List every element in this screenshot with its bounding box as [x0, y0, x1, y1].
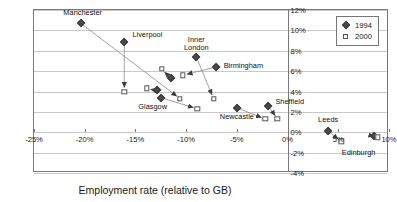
tick-mark	[389, 129, 390, 132]
city-label: Manchester	[63, 9, 102, 18]
legend: 1994 2000	[336, 16, 379, 46]
city-label: Birmingham	[224, 62, 263, 71]
x-axis-title: Employment rate (relative to GB)	[30, 182, 280, 198]
city-label: Edinburgh	[342, 149, 376, 158]
x-tick-label: -10%	[177, 135, 195, 144]
city-label: Newcastle	[220, 113, 254, 122]
city-label: Glasgow	[138, 103, 167, 112]
gridline	[34, 173, 387, 174]
point-2000	[177, 96, 182, 101]
city-label: Liverpool	[132, 31, 162, 40]
city-label: Leeds	[318, 116, 338, 125]
x-tick-label: 10%	[381, 135, 396, 144]
plot-area: ManchesterLiverpoolInnerLondonBirmingham…	[33, 9, 388, 172]
legend-entry-2000: 2000	[341, 31, 372, 42]
diamond-icon	[341, 22, 350, 28]
y-tick-label: 6%	[291, 67, 302, 76]
x-tick-label: -15%	[127, 135, 145, 144]
y-tick-label: 8%	[291, 46, 302, 55]
x-tick-label: -25%	[25, 135, 43, 144]
y-tick-label: 10%	[291, 26, 306, 35]
x-tick-label: 0%	[282, 135, 293, 144]
x-tick-label: -20%	[76, 135, 94, 144]
legend-label: 1994	[355, 20, 372, 31]
city-label: InnerLondon	[184, 36, 209, 53]
point-2000	[180, 72, 185, 77]
point-2000	[263, 116, 268, 121]
point-2000	[275, 116, 280, 121]
x-tick-label: 5%	[333, 135, 344, 144]
point-2000	[195, 106, 200, 111]
point-2000	[375, 135, 380, 140]
arrow	[81, 23, 177, 96]
point-2000	[211, 96, 216, 101]
y-tick-label: 12%	[291, 6, 306, 15]
legend-entry-1994: 1994	[341, 20, 372, 31]
x-tick-label: -5%	[230, 135, 244, 144]
point-2000	[159, 66, 164, 71]
y-tick-label: 2%	[291, 107, 302, 116]
square-icon	[341, 34, 350, 39]
y-tick-label: 4%	[291, 87, 302, 96]
city-label: Sheffield	[275, 98, 304, 107]
y-tick-label: -4%	[291, 169, 305, 178]
point-2000	[122, 89, 127, 94]
point-2000	[144, 86, 149, 91]
legend-label: 2000	[355, 31, 372, 42]
arrow	[196, 57, 212, 95]
y-tick-label: -2%	[291, 148, 305, 157]
